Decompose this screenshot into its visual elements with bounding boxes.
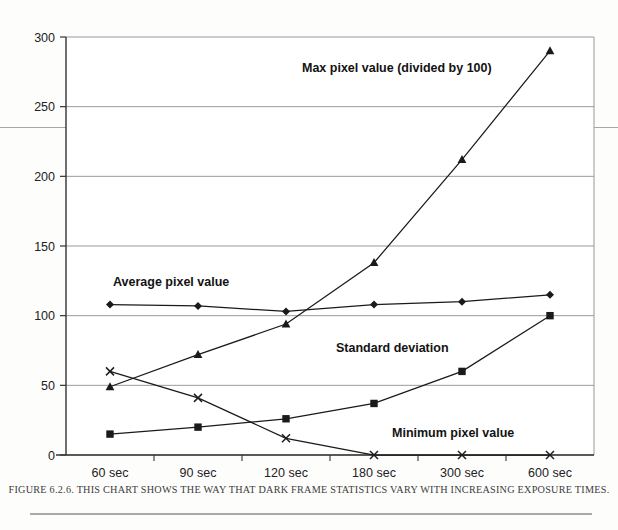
y-axis-label-150: 150 (34, 240, 55, 254)
y-axis-label-250: 250 (34, 100, 55, 114)
line-chart: 05010015020025030060 sec90 sec120 sec180… (0, 0, 618, 480)
marker-square (282, 415, 289, 422)
x-axis-label-90-sec: 90 sec (180, 466, 217, 480)
y-axis-label-50: 50 (41, 379, 55, 393)
marker-square (370, 400, 377, 407)
series-annotation-minimum-pixel-value: Minimum pixel value (392, 426, 514, 440)
chart-figure: 05010015020025030060 sec90 sec120 sec180… (0, 0, 618, 480)
x-axis-label-180-sec: 180 sec (352, 466, 396, 480)
marker-square (546, 312, 553, 319)
y-axis-label-0: 0 (48, 449, 55, 463)
series-annotation-average-pixel-value: Average pixel value (113, 275, 229, 289)
figure-page: 05010015020025030060 sec90 sec120 sec180… (0, 0, 618, 530)
x-axis-label-60-sec: 60 sec (92, 466, 129, 480)
series-annotation-standard-deviation: Standard deviation (336, 341, 449, 355)
x-axis-label-300-sec: 300 sec (440, 466, 484, 480)
page-bottom-rule (30, 513, 592, 515)
marker-square (194, 423, 201, 430)
y-axis-label-200: 200 (34, 170, 55, 184)
x-axis-label-600-sec: 600 sec (528, 466, 572, 480)
marker-square (458, 368, 465, 375)
figure-caption: FIGURE 6.2.6. THIS CHART SHOWS THE WAY T… (0, 484, 618, 495)
marker-square (106, 430, 113, 437)
series-annotation-max-pixel-value-divided-by-100: Max pixel value (divided by 100) (302, 61, 492, 75)
y-axis-label-300: 300 (34, 31, 55, 45)
y-axis-label-100: 100 (34, 309, 55, 323)
x-axis-label-120-sec: 120 sec (264, 466, 308, 480)
